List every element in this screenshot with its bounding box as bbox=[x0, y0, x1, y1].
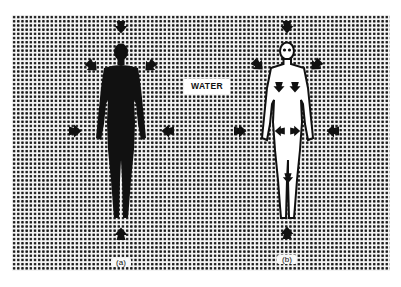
figure-b-outline-body bbox=[262, 43, 313, 219]
arrow-bottom-icon bbox=[281, 227, 294, 240]
water-label: WATER bbox=[184, 79, 230, 94]
arrow-upper-left-icon bbox=[83, 57, 101, 75]
panel-a-caption: (a) bbox=[111, 258, 131, 267]
arrow-upper-right-icon bbox=[307, 56, 325, 74]
panel-b-caption: (b) bbox=[277, 255, 297, 264]
arrow-top-icon bbox=[115, 21, 128, 34]
arrow-top-icon bbox=[281, 21, 294, 34]
arrow-bottom-icon bbox=[115, 228, 128, 241]
arrow-upper-left-icon bbox=[249, 56, 267, 74]
arrow-left-icon bbox=[234, 125, 247, 138]
diagram-canvas bbox=[0, 0, 401, 287]
arrow-left-icon bbox=[69, 125, 82, 138]
arrow-right-icon bbox=[162, 125, 175, 138]
arrow-upper-right-icon bbox=[141, 57, 159, 75]
arrow-right-icon bbox=[327, 125, 340, 138]
figure-a-solid-body bbox=[96, 44, 146, 219]
